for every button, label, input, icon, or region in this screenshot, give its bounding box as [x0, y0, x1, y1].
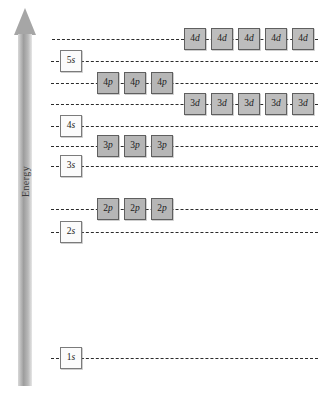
orbital-box-3s-1: 3s — [60, 155, 82, 177]
orbital-box-4s-1: 4s — [60, 115, 82, 137]
level-line-5s — [51, 61, 318, 62]
orbital-box-3p-3: 3p — [151, 135, 173, 157]
orbital-subshell-letter: s — [72, 161, 76, 171]
orbital-subshell-letter: p — [135, 78, 140, 88]
orbital-box-3d-4: 3d — [265, 93, 287, 115]
orbital-subshell-letter: p — [162, 141, 167, 151]
orbital-box-4p-3: 4p — [151, 72, 173, 94]
orbital-subshell-letter: d — [249, 34, 254, 44]
level-line-2s — [51, 232, 318, 233]
orbital-subshell-letter: s — [72, 121, 76, 131]
level-line-3p — [51, 146, 318, 147]
orbital-box-3d-5: 3d — [292, 93, 314, 115]
orbital-box-2s-1: 2s — [60, 221, 82, 243]
orbital-box-3p-1: 3p — [97, 135, 119, 157]
orbital-subshell-letter: d — [195, 99, 200, 109]
orbital-box-4d-2: 4d — [211, 28, 233, 50]
level-line-3s — [51, 166, 318, 167]
orbital-subshell-letter: p — [162, 204, 167, 214]
orbital-subshell-letter: p — [162, 78, 167, 88]
orbital-subshell-letter: d — [195, 34, 200, 44]
orbital-subshell-letter: p — [108, 141, 113, 151]
orbital-subshell-letter: s — [72, 56, 76, 66]
energy-level-diagram: Energy 4d4d4d4d4d5s4p4p4p3d3d3d3d3d4s3p3… — [0, 0, 326, 394]
orbital-box-3d-1: 3d — [184, 93, 206, 115]
energy-axis-arrow: Energy — [14, 8, 36, 386]
orbital-box-2p-1: 2p — [97, 198, 119, 220]
orbital-subshell-letter: d — [249, 99, 254, 109]
orbital-box-4d-1: 4d — [184, 28, 206, 50]
orbital-box-4p-1: 4p — [97, 72, 119, 94]
orbital-box-2p-2: 2p — [124, 198, 146, 220]
orbital-subshell-letter: p — [135, 141, 140, 151]
orbital-subshell-letter: p — [108, 204, 113, 214]
orbital-subshell-letter: s — [72, 227, 76, 237]
orbital-box-5s-1: 5s — [60, 50, 82, 72]
orbital-subshell-letter: p — [108, 78, 113, 88]
level-line-4s — [51, 126, 318, 127]
orbital-subshell-letter: p — [135, 204, 140, 214]
level-line-1s — [51, 358, 318, 359]
orbital-subshell-letter: d — [276, 34, 281, 44]
level-line-2p — [51, 209, 318, 210]
orbital-box-3p-2: 3p — [124, 135, 146, 157]
orbital-box-4p-2: 4p — [124, 72, 146, 94]
orbital-subshell-letter: s — [72, 353, 76, 363]
arrow-head-icon — [14, 8, 36, 35]
orbital-box-1s-1: 1s — [60, 347, 82, 369]
orbital-subshell-letter: d — [276, 99, 281, 109]
level-line-4p — [51, 83, 318, 84]
orbital-box-4d-4: 4d — [265, 28, 287, 50]
orbital-subshell-letter: d — [222, 99, 227, 109]
orbital-box-4d-3: 4d — [238, 28, 260, 50]
orbital-box-3d-2: 3d — [211, 93, 233, 115]
orbital-box-4d-5: 4d — [292, 28, 314, 50]
axis-label-energy: Energy — [20, 147, 31, 217]
orbital-subshell-letter: d — [303, 34, 308, 44]
orbital-subshell-letter: d — [222, 34, 227, 44]
orbital-box-3d-3: 3d — [238, 93, 260, 115]
orbital-subshell-letter: d — [303, 99, 308, 109]
orbital-box-2p-3: 2p — [151, 198, 173, 220]
